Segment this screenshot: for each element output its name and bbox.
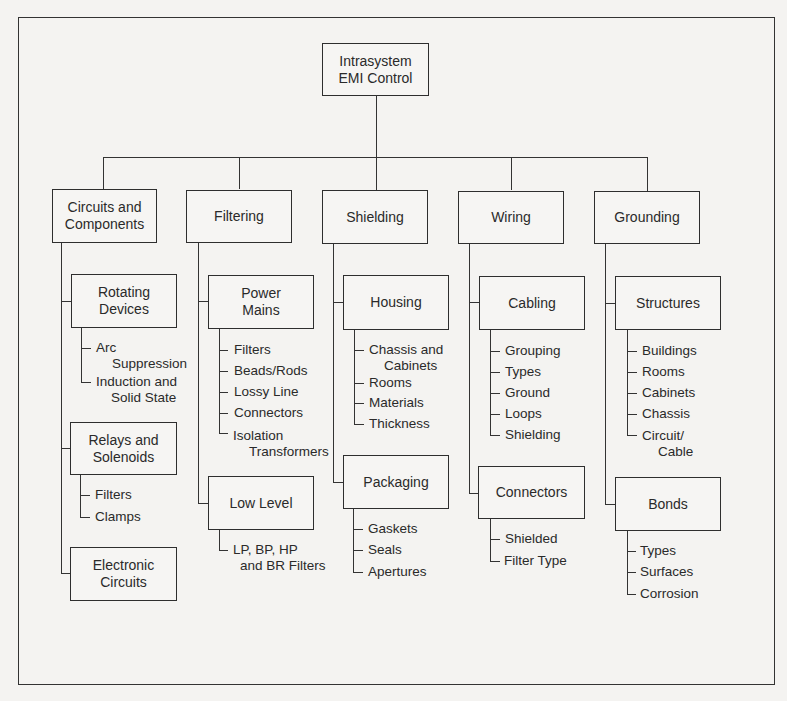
item-cabinets: Cabinets [384,358,437,374]
item-lp-bp-hp: LP, BP, HP [233,542,298,558]
category-filtering: Filtering [186,190,292,243]
item-induction-and: Induction and [96,374,177,390]
group-rotating-devices: Rotating Devices [71,274,177,328]
item-rooms: Rooms [642,364,685,380]
connector-line [469,244,470,493]
item-shielded: Shielded [505,531,558,547]
connector-line [354,403,364,404]
item-lossy-line: Lossy Line [234,384,299,400]
item-loops: Loops [505,406,542,422]
connector-line [490,539,500,540]
connector-line [490,351,500,352]
connector-line [219,371,228,372]
connector-line [627,351,637,352]
connector-line [490,435,500,436]
connector-line [647,157,648,191]
connector-line [490,330,491,435]
item-connectors: Connectors [234,405,303,421]
item-materials: Materials [369,395,424,411]
item-beads-rods: Beads/Rods [234,363,308,379]
connector-line [80,517,90,518]
connector-line [511,157,512,190]
group-structures: Structures [615,276,721,330]
connector-line [490,372,500,373]
connector-line [198,301,208,302]
item-suppression: Suppression [112,356,187,372]
connector-line [81,382,91,383]
connector-line [354,424,364,425]
connector-line [61,243,62,573]
connector-line [627,372,637,373]
connector-line [627,435,637,436]
connector-line [627,531,628,594]
connector-line [219,413,228,414]
connector-line [219,329,220,433]
group-packaging: Packaging [343,455,449,509]
connector-line [219,433,228,434]
connector-line [627,414,637,415]
connector-line [605,244,606,504]
item-circuit: Circuit/ [642,428,684,444]
item-arc: Arc [96,340,116,356]
item-isolation: Isolation [233,428,283,444]
item-filter-type: Filter Type [504,553,567,569]
category-shielding: Shielding [322,190,428,244]
connector-line [81,328,82,382]
item-shielding: Shielding [505,427,561,443]
connector-line [353,550,363,551]
item-cable: Cable [658,444,693,460]
connector-line [198,503,208,504]
category-grounding: Grounding [594,191,700,244]
connector-line [627,594,636,595]
connector-line [605,303,615,304]
connector-line [333,302,343,303]
category-circuits-and-components: Circuits and Components [52,189,157,243]
connector-line [354,383,364,384]
connector-line [354,330,355,424]
connector-line [219,530,220,550]
item-chassis: Chassis [642,406,690,422]
item-thickness: Thickness [369,416,430,432]
connector-line [354,350,364,351]
item-seals: Seals [368,542,402,558]
root-node-intrasystem-emi-control: Intrasystem EMI Control [322,43,429,96]
connector-line [376,95,377,157]
group-relays-and-solenoids: Relays and Solenoids [70,422,177,475]
connector-line [333,244,334,482]
connector-line [219,550,228,551]
connector-line [219,392,228,393]
item-cabinets: Cabinets [642,385,695,401]
connector-line [198,243,199,503]
item-apertures: Apertures [368,564,427,580]
connector-line [490,414,500,415]
item-corrosion: Corrosion [640,586,699,602]
connector-line [353,572,363,573]
item-buildings: Buildings [642,343,697,359]
connector-line [627,551,636,552]
group-bonds: Bonds [615,477,721,531]
item-and-br-filters: and BR Filters [240,558,326,574]
connector-line [103,157,104,189]
connector-line [376,157,377,190]
item-filters: Filters [234,342,271,358]
item-transformers: Transformers [249,444,329,460]
group-housing: Housing [343,275,449,330]
group-power-mains: Power Mains [208,275,314,329]
item-ground: Ground [505,385,550,401]
connector-line [605,504,615,505]
item-filters: Filters [95,487,132,503]
connector-line [627,572,636,573]
item-types: Types [640,543,676,559]
item-surfaces: Surfaces [640,564,693,580]
group-connectors: Connectors [478,466,585,519]
connector-line [239,157,240,189]
item-types: Types [505,364,541,380]
item-rooms: Rooms [369,375,412,391]
group-cabling: Cabling [479,276,585,330]
connector-line [219,350,228,351]
connector-line [490,561,500,562]
item-solid-state: Solid State [111,390,176,406]
connector-line [490,393,500,394]
item-gaskets: Gaskets [368,521,418,537]
group-low-level: Low Level [208,476,314,530]
